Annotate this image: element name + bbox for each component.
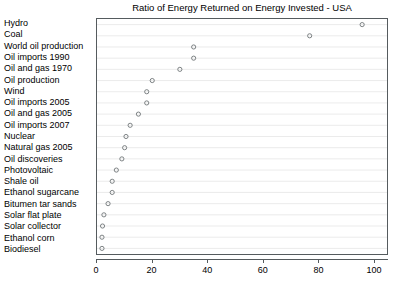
- x-axis-tick-label: 100: [359, 265, 389, 276]
- data-point: Ethanol sugarcane: 5.5: [110, 190, 114, 194]
- data-point: Oil imports 2007: 12: [128, 123, 132, 127]
- data-point: Solar collector: 2: [100, 224, 104, 228]
- category-label: Wind: [0, 86, 87, 96]
- category-label: Oil imports 1990: [0, 52, 87, 62]
- data-point: Bitumen tar sands: 4: [106, 202, 110, 206]
- data-point: Natural gas 2005: 10: [123, 146, 127, 150]
- category-label: Shale oil: [0, 176, 87, 186]
- category-label: Biodiesel: [0, 244, 87, 254]
- x-axis-tick: [318, 259, 319, 263]
- category-label: Oil imports 2005: [0, 97, 87, 107]
- x-axis-tick: [263, 259, 264, 263]
- category-label: Oil production: [0, 75, 87, 85]
- data-point: Coal: 77: [308, 34, 312, 38]
- data-point: Oil discoveries: 9: [120, 157, 124, 161]
- x-axis-tick: [152, 259, 153, 263]
- category-label: Oil and gas 1970: [0, 63, 87, 73]
- category-label: Oil and gas 2005: [0, 108, 87, 118]
- data-point: Oil and gas 2005: 15: [136, 112, 140, 116]
- x-axis-tick: [374, 259, 375, 263]
- category-axis-labels: HydroCoalWorld oil productionOil imports…: [0, 18, 92, 255]
- category-label: Oil imports 2007: [0, 120, 87, 130]
- data-point: Wind: 18: [145, 90, 149, 94]
- chart-title: Ratio of Energy Returned on Energy Inves…: [96, 2, 388, 14]
- data-point: Hydro: 96: [360, 23, 364, 27]
- data-point: Oil imports 1990: 35: [192, 56, 196, 60]
- category-label: Photovoltaic: [0, 165, 87, 175]
- x-axis-tick: [96, 259, 97, 263]
- category-label: Nuclear: [0, 131, 87, 141]
- data-point: Shale oil: 5.5: [110, 179, 114, 183]
- data-point: Oil imports 2005: 18: [145, 101, 149, 105]
- data-point: Biodiesel: 1.8: [100, 246, 104, 250]
- x-axis: 020406080100: [96, 255, 388, 287]
- category-label: Ethanol corn: [0, 233, 87, 243]
- x-axis-tick-label: 0: [81, 265, 111, 276]
- x-axis-tick-label: 40: [192, 265, 222, 276]
- data-point: Photovoltaic: 7: [114, 168, 118, 172]
- x-axis-tick: [207, 259, 208, 263]
- category-label: Bitumen tar sands: [0, 199, 87, 209]
- data-point: World oil production: 35: [192, 45, 196, 49]
- x-axis-line: [96, 259, 388, 260]
- category-label: World oil production: [0, 41, 87, 51]
- data-points-layer: Hydro: 96Coal: 77World oil production: 3…: [97, 19, 387, 254]
- category-label: Ethanol sugarcane: [0, 187, 87, 197]
- category-label: Oil discoveries: [0, 154, 87, 164]
- category-label: Solar flat plate: [0, 210, 87, 220]
- x-axis-tick-label: 80: [303, 265, 333, 276]
- data-point: Solar flat plate: 2.5: [102, 213, 106, 217]
- x-axis-tick-label: 20: [137, 265, 167, 276]
- data-point: Oil and gas 1970: 30: [178, 67, 182, 71]
- x-axis-tick-label: 60: [248, 265, 278, 276]
- category-label: Solar collector: [0, 221, 87, 231]
- plot-area: Hydro: 96Coal: 77World oil production: 3…: [96, 18, 388, 255]
- data-point: Nuclear: 10.5: [124, 134, 128, 138]
- category-label: Natural gas 2005: [0, 142, 87, 152]
- category-label: Hydro: [0, 18, 87, 28]
- category-label: Coal: [0, 29, 87, 39]
- eroei-dot-chart: Ratio of Energy Returned on Energy Inves…: [0, 0, 395, 287]
- data-point: Ethanol corn: 1.8: [100, 235, 104, 239]
- data-point: Oil production: 20: [150, 78, 154, 82]
